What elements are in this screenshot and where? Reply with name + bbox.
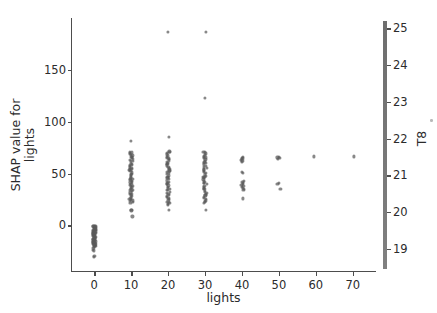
scatter-point xyxy=(92,249,95,252)
scatter-point xyxy=(168,209,171,212)
y-tick-mark xyxy=(68,122,72,123)
colorbar-tick-label: 21 xyxy=(393,168,408,182)
x-tick-mark xyxy=(316,272,317,276)
scatter-point xyxy=(131,215,134,218)
y-tick-label: 150 xyxy=(44,63,66,77)
colorbar-tick-label: 24 xyxy=(393,58,408,72)
shap-dependence-plot-figure: 050100150 010203040506070 SHAP value for… xyxy=(0,0,437,313)
x-tick-mark xyxy=(94,272,95,276)
stray-artifact-dot xyxy=(430,119,433,122)
y-axis-label: SHAP value for lights xyxy=(6,18,40,272)
colorbar-tick-mark xyxy=(387,249,391,250)
colorbar-tick-mark xyxy=(387,139,391,140)
y-tick-mark xyxy=(68,225,72,226)
y-axis-label-line2: lights xyxy=(23,99,37,192)
scatter-point xyxy=(168,169,171,172)
scatter-point xyxy=(204,30,207,33)
scatter-point xyxy=(167,136,170,139)
colorbar-tick-label: 25 xyxy=(393,21,408,35)
scatter-point xyxy=(166,204,169,207)
scatter-point xyxy=(276,158,279,161)
colorbar-tick-label: 20 xyxy=(393,205,408,219)
scatter-point xyxy=(131,189,134,192)
x-tick-mark xyxy=(242,272,243,276)
colorbar-tick-label: 19 xyxy=(393,242,408,256)
scatter-point xyxy=(240,160,243,163)
scatter-point xyxy=(204,156,207,159)
x-tick-mark xyxy=(168,272,169,276)
y-tick-mark xyxy=(68,70,72,71)
colorbar-label: T8 xyxy=(414,131,429,147)
colorbar: 19202122232425 xyxy=(383,21,387,269)
colorbar-tick-mark xyxy=(387,102,391,103)
colorbar-tick-mark xyxy=(387,175,391,176)
scatter-point xyxy=(242,188,245,191)
y-tick-mark xyxy=(68,174,72,175)
colorbar-tick-mark xyxy=(387,28,391,29)
scatter-point xyxy=(131,159,134,162)
x-tick-mark xyxy=(279,272,280,276)
x-axis-label: lights xyxy=(71,290,376,305)
scatter-point xyxy=(352,155,355,158)
scatter-point xyxy=(241,171,244,174)
y-axis-label-line1: SHAP value for xyxy=(9,99,23,192)
scatter-point xyxy=(92,255,95,258)
x-tick-mark xyxy=(131,272,132,276)
y-tick-label: 50 xyxy=(51,167,66,181)
scatter-point xyxy=(279,187,282,190)
colorbar-tick-mark xyxy=(387,65,391,66)
y-tick-label: 0 xyxy=(59,218,66,232)
colorbar-tick-mark xyxy=(387,212,391,213)
colorbar-tick-label: 23 xyxy=(393,95,408,109)
colorbar-tick-label: 22 xyxy=(393,132,408,146)
scatter-point xyxy=(276,182,279,185)
scatter-point xyxy=(204,209,207,212)
scatter-point xyxy=(242,197,245,200)
x-tick-mark xyxy=(205,272,206,276)
plot-area: 050100150 010203040506070 xyxy=(72,18,375,272)
scatter-point xyxy=(204,194,207,197)
scatter-point xyxy=(129,139,132,142)
x-tick-mark xyxy=(353,272,354,276)
scatter-point xyxy=(203,175,206,178)
scatter-point xyxy=(130,209,133,212)
scatter-point xyxy=(204,96,207,99)
scatter-point xyxy=(166,30,169,33)
y-tick-label: 100 xyxy=(44,115,66,129)
scatter-point xyxy=(313,155,316,158)
scatter-point xyxy=(131,180,134,183)
